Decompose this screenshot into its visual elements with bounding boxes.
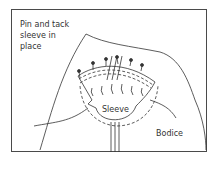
sleeve-label: Sleeve [102, 104, 129, 115]
instruction-label: Pin and tack sleeve in place [20, 19, 80, 52]
instruction-line-1: Pin and tack [20, 19, 80, 30]
bodice-label: Bodice [156, 128, 183, 139]
instruction-line-3: place [20, 41, 80, 52]
instruction-line-2: sleeve in [20, 30, 80, 41]
